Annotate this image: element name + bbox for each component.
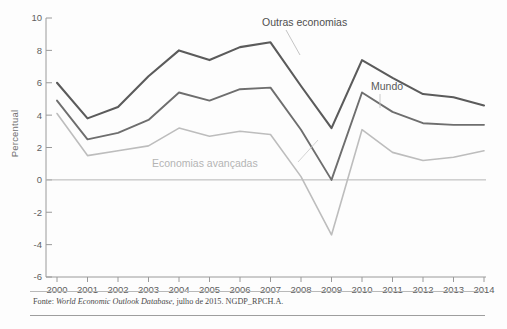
x-tick-label: 2010 bbox=[351, 284, 372, 295]
annotation-outras-economias: Outras economias bbox=[262, 16, 347, 28]
annotation-economias-avancadas: Economias avançadas bbox=[152, 157, 258, 169]
y-tick-label: -2 bbox=[34, 207, 42, 218]
x-tick-label: 2002 bbox=[107, 284, 128, 295]
y-tick-label: 4 bbox=[37, 110, 42, 121]
x-tick-label: 2012 bbox=[412, 284, 433, 295]
source-rest: , julho de 2015. NGDP_RPCH.A. bbox=[172, 297, 283, 306]
x-tick-label: 2011 bbox=[382, 284, 402, 295]
x-tick-label: 2008 bbox=[290, 284, 311, 295]
y-tick-label: -6 bbox=[34, 271, 42, 282]
series-line bbox=[57, 42, 484, 128]
divider-bottom bbox=[30, 315, 485, 316]
annotation-mundo: Mundo bbox=[371, 80, 403, 92]
y-tick-label: 6 bbox=[37, 77, 42, 88]
x-tick-label: 2014 bbox=[473, 284, 494, 295]
y-tick-label: -4 bbox=[34, 239, 42, 250]
y-tick-label: 10 bbox=[31, 12, 42, 23]
x-tick-label: 2006 bbox=[229, 284, 250, 295]
x-tick-label: 2000 bbox=[46, 284, 67, 295]
series-line bbox=[57, 88, 484, 180]
chart-figure: Percentual 1086420-2-4-62000200120022003… bbox=[0, 0, 507, 329]
line-chart-plot: 1086420-2-4-6200020012002200320042005200… bbox=[0, 0, 507, 300]
source-note: Fonte: World Economic Outlook Database, … bbox=[33, 297, 283, 306]
x-tick-label: 2001 bbox=[77, 284, 98, 295]
y-tick-label: 2 bbox=[37, 142, 42, 153]
y-tick-label: 8 bbox=[37, 45, 42, 56]
x-tick-label: 2007 bbox=[260, 284, 281, 295]
source-prefix: Fonte: bbox=[33, 297, 54, 306]
x-tick-label: 2009 bbox=[321, 284, 342, 295]
y-tick-label: 0 bbox=[37, 174, 42, 185]
divider-top bbox=[30, 291, 485, 292]
source-database-name: World Economic Outlook Database bbox=[56, 297, 172, 306]
x-tick-label: 2004 bbox=[168, 284, 189, 295]
x-tick-label: 2005 bbox=[199, 284, 220, 295]
x-tick-label: 2013 bbox=[443, 284, 464, 295]
x-tick-label: 2003 bbox=[138, 284, 159, 295]
